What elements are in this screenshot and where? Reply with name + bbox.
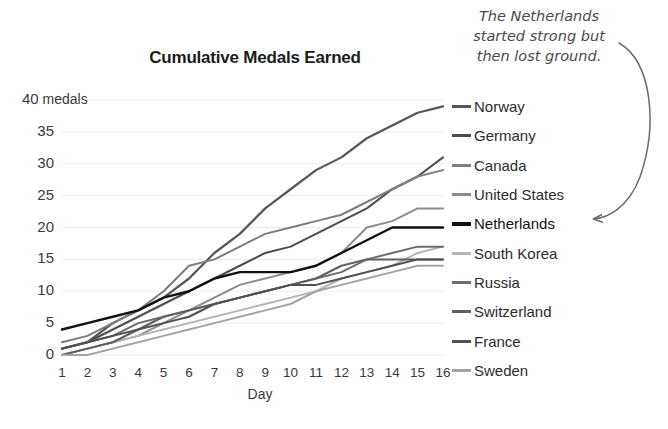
y-axis-unit-label: medals — [39, 91, 88, 107]
legend-item-russia[interactable]: Russia — [452, 268, 652, 297]
legend-line-swatch — [452, 222, 471, 226]
legend-item-norway[interactable]: Norway — [452, 92, 652, 121]
y-tick-label: 30 — [0, 154, 54, 171]
x-tick-label: 6 — [175, 365, 203, 380]
legend-item-switzerland[interactable]: Switzerland — [452, 297, 652, 326]
annotation-line-1: The Netherlands — [455, 6, 623, 26]
legend-item-sweden[interactable]: Sweden — [452, 356, 652, 385]
x-tick-label: 5 — [150, 365, 178, 380]
legend-item-south-korea[interactable]: South Korea — [452, 238, 652, 267]
series-lines — [62, 106, 443, 355]
x-axis-title: Day — [200, 386, 320, 402]
x-tick-label: 3 — [99, 365, 127, 380]
y-tick-label: 20 — [0, 218, 54, 235]
chart-canvas: Cumulative Medals Earned 051015202530354… — [0, 0, 668, 429]
x-tick-label: 12 — [327, 365, 355, 380]
legend-line-swatch — [452, 193, 471, 196]
x-tick-label: 11 — [302, 365, 330, 380]
y-tick-label: 15 — [0, 249, 54, 266]
y-tick-label: 10 — [0, 281, 54, 298]
x-tick-label: 7 — [200, 365, 228, 380]
legend-line-swatch — [452, 134, 471, 137]
legend-label: Norway — [474, 99, 525, 114]
legend-label: United States — [474, 187, 564, 202]
y-tick-label: 5 — [0, 313, 54, 330]
legend-line-swatch — [452, 252, 471, 255]
legend-item-united-states[interactable]: United States — [452, 180, 652, 209]
legend-item-france[interactable]: France — [452, 326, 652, 355]
x-tick-label: 13 — [353, 365, 381, 380]
legend-label: South Korea — [474, 246, 557, 261]
legend-label: France — [474, 334, 521, 349]
x-tick-label: 9 — [251, 365, 279, 380]
legend-line-swatch — [452, 281, 471, 284]
legend-item-netherlands[interactable]: Netherlands — [452, 209, 652, 238]
gridlines — [62, 100, 445, 355]
legend-item-germany[interactable]: Germany — [452, 121, 652, 150]
legend-line-swatch — [452, 369, 471, 372]
x-tick-label: 14 — [378, 365, 406, 380]
x-tick-label: 15 — [404, 365, 432, 380]
y-tick-label: 25 — [0, 186, 54, 203]
y-tick-label: 40 medals — [22, 90, 112, 107]
legend-item-canada[interactable]: Canada — [452, 151, 652, 180]
annotation-line-2: started strong but — [455, 26, 623, 46]
legend-label: Russia — [474, 275, 520, 290]
chart-annotation: The Netherlands started strong but then … — [455, 6, 623, 66]
legend-label: Switzerland — [474, 304, 552, 319]
y-tick-label: 0 — [0, 345, 54, 362]
x-tick-label: 10 — [277, 365, 305, 380]
legend-label: Netherlands — [474, 216, 555, 231]
legend-label: Canada — [474, 158, 527, 173]
annotation-line-3: then lost ground. — [455, 46, 623, 66]
y-tick-label: 35 — [0, 122, 54, 139]
x-tick-label: 2 — [73, 365, 101, 380]
x-tick-label: 8 — [226, 365, 254, 380]
legend-line-swatch — [452, 340, 471, 343]
x-tick-label: 4 — [124, 365, 152, 380]
legend-label: Sweden — [474, 363, 528, 378]
legend-label: Germany — [474, 128, 536, 143]
legend-line-swatch — [452, 105, 471, 108]
legend-line-swatch — [452, 310, 471, 313]
chart-legend: NorwayGermanyCanadaUnited StatesNetherla… — [452, 92, 652, 385]
legend-line-swatch — [452, 164, 471, 167]
x-tick-label: 1 — [48, 365, 76, 380]
